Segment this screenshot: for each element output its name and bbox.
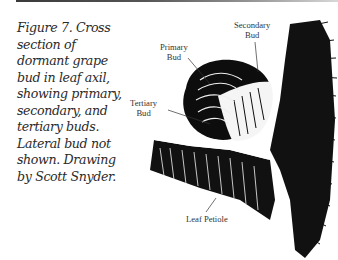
caption-line: bud in leaf axil, xyxy=(17,70,131,87)
caption-line: secondary, and xyxy=(17,103,131,120)
caption-line: Figure 7. Cross xyxy=(17,20,131,37)
label-leaf-petiole: Leaf Petiole xyxy=(186,214,228,224)
caption-line: section of xyxy=(17,37,131,54)
caption-line: showing primary, xyxy=(17,86,131,103)
caption-line: Lateral bud not xyxy=(17,136,131,153)
caption-line: dormant grape xyxy=(17,53,131,70)
caption-line: tertiary buds. xyxy=(17,119,131,136)
label-tertiary-bud: Tertiary Bud xyxy=(130,98,157,118)
caption-line: by Scott Snyder. xyxy=(17,169,131,186)
grape-bud-drawing: Secondary Bud Primary Bud Tertiary Bud L… xyxy=(130,0,338,260)
label-secondary-bud: Secondary Bud xyxy=(234,20,270,40)
label-primary-bud: Primary Bud xyxy=(160,42,188,62)
figure-caption: Figure 7. Cross section of dormant grape… xyxy=(17,20,131,185)
caption-line: shown. Drawing xyxy=(17,152,131,169)
